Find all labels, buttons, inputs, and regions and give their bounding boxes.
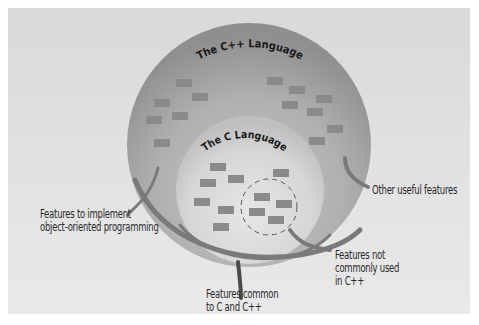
- callout-oop-line-2: object-oriented programming: [40, 221, 159, 234]
- callout-common-features: Features common to C and C++: [206, 288, 278, 314]
- callout-other-line-1: Other useful features: [372, 184, 457, 197]
- venn-diagram: The C++ Language The C Language: [0, 0, 479, 325]
- callout-oop-features: Features to implement object-oriented pr…: [40, 208, 159, 234]
- callout-common-line-2: to C and C++: [206, 301, 278, 314]
- callout-not-common-features: Features not commonly used in C++: [335, 249, 399, 288]
- callout-other-features: Other useful features: [372, 184, 457, 197]
- callout-not-common-line-3: in C++: [335, 275, 399, 288]
